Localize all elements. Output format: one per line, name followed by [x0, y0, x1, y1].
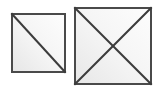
diagram-canvas	[0, 0, 157, 92]
shapes-svg	[0, 0, 157, 92]
small-square[interactable]	[12, 14, 65, 72]
large-square[interactable]	[75, 8, 151, 84]
